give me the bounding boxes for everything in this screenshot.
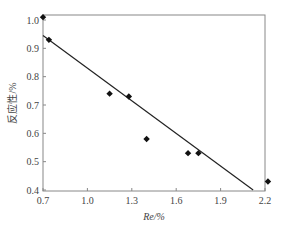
y-tick-label: 0.4: [27, 185, 40, 196]
x-axis-label: Re/%: [142, 211, 165, 222]
y-tick-label: 0.7: [27, 100, 40, 111]
chart: 0.71.01.31.61.92.20.40.50.60.70.80.91.0R…: [0, 0, 283, 225]
x-tick-label: 1.3: [126, 195, 139, 206]
data-point: [106, 90, 112, 96]
fit-line: [43, 36, 253, 190]
y-tick-label: 0.8: [27, 71, 40, 82]
x-tick-label: 1.9: [214, 195, 227, 206]
x-tick-label: 2.2: [259, 195, 272, 206]
x-tick-label: 1.6: [170, 195, 183, 206]
data-point: [265, 178, 271, 184]
y-tick-label: 1.0: [27, 15, 40, 26]
y-tick-label: 0.6: [27, 128, 40, 139]
y-tick-label: 0.5: [27, 156, 40, 167]
x-tick-label: 0.7: [37, 195, 50, 206]
y-tick-label: 0.9: [27, 43, 40, 54]
scatter-plot: 0.71.01.31.61.92.20.40.50.60.70.80.91.0R…: [0, 0, 283, 225]
data-point: [185, 150, 191, 156]
data-point: [126, 93, 132, 99]
data-point: [143, 136, 149, 142]
x-tick-label: 1.0: [81, 195, 94, 206]
plot-frame: [43, 15, 265, 191]
y-axis-label: 反应性/%: [6, 82, 18, 123]
